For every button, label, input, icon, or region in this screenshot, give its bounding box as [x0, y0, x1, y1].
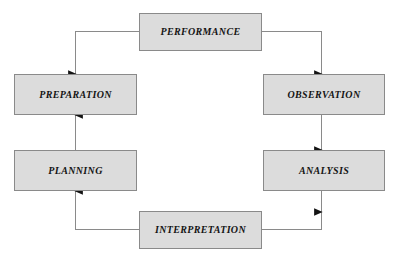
edge-interpretation-to-planning: [76, 191, 140, 230]
node-interpretation[interactable]: INTERPRETATION: [139, 211, 262, 249]
node-preparation-label: PREPARATION: [39, 90, 112, 100]
edge-performance-to-observation: [262, 32, 322, 75]
edge-analysis-to-interpretation: [262, 191, 322, 230]
node-interpretation-label: INTERPRETATION: [155, 225, 246, 235]
node-analysis[interactable]: ANALYSIS: [263, 150, 385, 191]
node-planning[interactable]: PLANNING: [14, 150, 137, 191]
node-analysis-label: ANALYSIS: [299, 166, 349, 176]
node-preparation[interactable]: PREPARATION: [14, 74, 137, 115]
node-observation-label: OBSERVATION: [288, 90, 361, 100]
node-planning-label: PLANNING: [48, 166, 102, 176]
cycle-diagram: PERFORMANCE OBSERVATION ANALYSIS INTERPR…: [0, 0, 397, 261]
node-observation[interactable]: OBSERVATION: [263, 74, 385, 115]
node-performance-label: PERFORMANCE: [161, 27, 241, 37]
edge-preparation-to-performance: [76, 32, 140, 75]
node-performance[interactable]: PERFORMANCE: [139, 13, 262, 51]
